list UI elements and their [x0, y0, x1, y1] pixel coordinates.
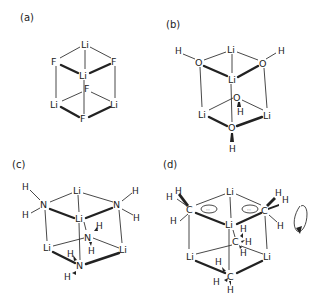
atom-n: N: [84, 232, 91, 243]
atom-h: H: [237, 107, 244, 117]
atom-li: Li: [43, 242, 51, 253]
atom-o: O: [233, 92, 240, 103]
atom-c: C: [261, 205, 268, 216]
atom-li: Li: [75, 213, 83, 224]
atom-h: H: [96, 221, 103, 231]
atom-h: H: [229, 144, 236, 154]
atom-li: Li: [198, 109, 206, 120]
atom-li: Li: [263, 110, 271, 121]
atom-h: H: [175, 46, 182, 56]
panel-b-label: (b): [166, 19, 180, 30]
atom-h: H: [22, 210, 29, 220]
atom-n: N: [40, 199, 47, 210]
atom-h: H: [166, 192, 173, 202]
panel-d-label: (d): [163, 159, 177, 170]
rotation-arrow-icon: [296, 226, 302, 234]
atom-f: F: [84, 83, 89, 94]
atom-c: C: [232, 236, 239, 247]
atom-h: H: [22, 182, 29, 192]
lone-pair-left: ··: [206, 206, 210, 213]
atom-li: Li: [226, 186, 234, 197]
panel-c-label: (c): [12, 159, 25, 170]
atom-h: H: [67, 249, 74, 259]
atom-h: H: [133, 213, 140, 223]
atom-li: Li: [119, 244, 127, 255]
atom-h: H: [215, 257, 222, 267]
atom-o: O: [259, 58, 266, 69]
panel-a-label: (a): [20, 12, 34, 23]
atom-c: C: [186, 204, 193, 215]
atom-li: Li: [225, 219, 233, 230]
atom-n: N: [113, 199, 120, 210]
atom-li: Li: [227, 44, 235, 55]
atom-o: O: [228, 122, 235, 133]
panel-d: (d) ·· ··: [163, 159, 307, 295]
atom-c: C: [227, 271, 234, 282]
atom-li: Li: [228, 74, 236, 85]
atom-li: Li: [110, 99, 118, 110]
atom-h: H: [88, 246, 95, 256]
atom-li: Li: [81, 39, 89, 50]
atom-h: H: [213, 277, 220, 287]
atom-o: O: [195, 57, 202, 68]
panel-b: (b) H O Li O H Li O H Li Li O H: [166, 19, 285, 154]
atom-f: F: [51, 56, 56, 67]
atom-h: H: [240, 248, 247, 258]
cubane-structures-figure: (a) Li F F Li F Li Li F (b): [0, 0, 322, 298]
atom-h: H: [64, 272, 71, 282]
lone-pair-right: ··: [247, 206, 251, 213]
atom-h: H: [240, 224, 247, 234]
atom-li: Li: [79, 70, 87, 81]
atom-h: H: [282, 195, 289, 205]
panel-c: (c) H H N Li N H H Li N H H Li Li H: [12, 159, 140, 282]
atom-h: H: [245, 237, 252, 247]
atom-h: H: [227, 285, 234, 295]
panel-a: (a) Li F F Li F Li Li F: [20, 12, 118, 124]
atom-li: Li: [73, 185, 81, 196]
atom-li: Li: [50, 99, 58, 110]
atom-f: F: [111, 56, 116, 67]
atom-h: H: [275, 188, 282, 198]
atom-h: H: [170, 216, 177, 226]
atom-li: Li: [263, 251, 271, 262]
atom-h: H: [175, 186, 182, 196]
atom-f: F: [80, 113, 85, 124]
atom-h: H: [132, 186, 139, 196]
atom-h: H: [277, 221, 284, 231]
atom-n: N: [76, 260, 83, 271]
atom-li: Li: [186, 251, 194, 262]
atom-h: H: [278, 46, 285, 56]
